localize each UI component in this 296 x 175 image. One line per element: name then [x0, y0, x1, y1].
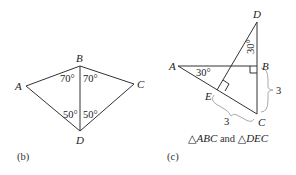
triangle-abc: △ABC	[188, 132, 218, 144]
angle-adb-label: 50°	[63, 109, 78, 120]
angle-dbc-label: 70°	[83, 73, 98, 84]
vertex-b-label: B	[76, 52, 83, 64]
length-bc-label: 3	[276, 85, 281, 96]
vertex-e-label: E	[204, 90, 212, 102]
vertex-c-label: C	[258, 116, 266, 128]
angle-bdc-label: 50°	[83, 109, 98, 120]
vertex-c-label: C	[137, 78, 145, 90]
segment-de	[217, 22, 257, 90]
figure-b: A B C D 70° 70° 50° 50° (b)	[14, 52, 145, 163]
geometry-figures: A B C D 70° 70° 50° 50° (b) A B C D E 30…	[0, 0, 296, 175]
vertex-a-label: A	[168, 60, 176, 72]
figure-c-caption: (c)	[167, 151, 179, 163]
vertex-d-label: D	[252, 8, 261, 20]
length-ec-label: 3	[224, 116, 229, 127]
angle-a-label: 30°	[196, 67, 211, 78]
right-angle-mark-e	[223, 80, 229, 91]
angle-abd-label: 70°	[60, 73, 75, 84]
figure-c: A B C D E 30° 30° 3 3 △ABC and △DEC (c)	[167, 8, 281, 163]
triangle-dec: △DEC	[238, 132, 269, 144]
and-text: and	[217, 133, 237, 144]
brace-bc	[261, 68, 273, 112]
vertex-a-label: A	[14, 80, 22, 92]
right-angle-mark-b	[250, 66, 257, 73]
vertex-b-label: B	[262, 60, 269, 72]
triangles-description: △ABC and △DEC	[188, 132, 269, 144]
vertex-d-label: D	[75, 134, 84, 146]
angle-d-label: 30°	[245, 39, 256, 54]
figure-b-caption: (b)	[17, 151, 30, 163]
